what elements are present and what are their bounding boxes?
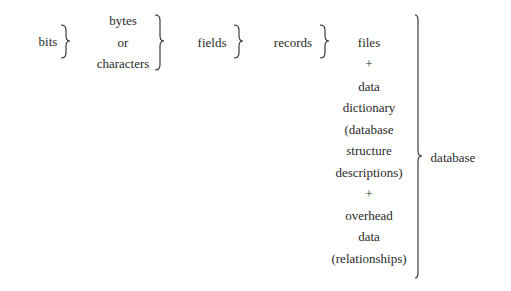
level-files-line: (relationships) [331, 252, 406, 265]
level-files-line: structure [346, 144, 391, 157]
brace-files-to-database [415, 15, 422, 278]
level-bits: bits [39, 35, 58, 48]
level-bytes-line: characters [97, 57, 150, 70]
level-files-line: descriptions) [335, 166, 402, 179]
level-records: records [274, 36, 312, 49]
brace-bytes-to-fields [155, 15, 164, 70]
brace-records-to-files [320, 25, 329, 58]
level-files-line: data [358, 80, 380, 93]
level-database: database [431, 151, 476, 164]
level-files-line: files [358, 36, 380, 49]
level-bytes-line: or [118, 36, 129, 49]
level-files-line: data [358, 230, 380, 243]
level-files-line: + [365, 57, 372, 70]
level-files-line: overhead [345, 209, 393, 222]
level-files-line: + [365, 187, 372, 200]
level-files-line: dictionary [343, 101, 396, 114]
brace-layer [0, 0, 511, 291]
level-files-line: (database [344, 123, 393, 136]
brace-fields-to-records [234, 25, 243, 58]
brace-bits-to-bytes [61, 25, 70, 58]
level-fields: fields [198, 36, 227, 49]
level-bytes-line: bytes [109, 14, 136, 27]
